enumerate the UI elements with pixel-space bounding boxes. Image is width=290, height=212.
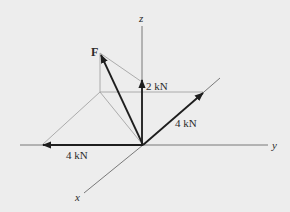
axes <box>20 26 268 193</box>
y-axis-label: y <box>272 140 277 151</box>
resultant-force-label: F <box>91 46 98 58</box>
x-axis <box>84 145 143 193</box>
y-component-label: 4 kN <box>175 118 197 129</box>
force-diagram: z y x F 2 kN 4 kN 4 kN <box>0 0 290 212</box>
x-axis-label: x <box>75 192 80 203</box>
negative-y-component-label: 4 kN <box>66 150 88 161</box>
z-axis-label: z <box>139 13 143 24</box>
diagram-graphics <box>0 0 290 212</box>
z-component-label: 2 kN <box>146 81 168 92</box>
